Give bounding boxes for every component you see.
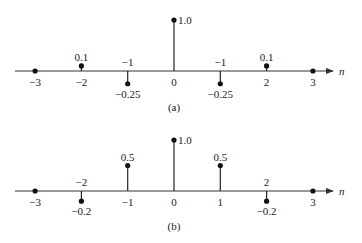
stem-marker: [79, 63, 84, 68]
stem-marker: [171, 137, 176, 142]
x-tick-label: −3: [29, 196, 41, 208]
value-label: 1.0: [178, 14, 192, 26]
x-tick-label: −2: [76, 76, 88, 88]
value-label: −0.2: [257, 205, 277, 217]
stem-plot-figure: n−3−20.1−1−0.2501.0−1−0.2520.13(a) n−3−2…: [0, 0, 362, 243]
x-tick-label: 3: [310, 76, 316, 88]
stem-marker: [310, 188, 315, 193]
value-label: −0.2: [71, 205, 91, 217]
x-tick-label: 0: [171, 196, 177, 208]
stem-marker: [33, 188, 38, 193]
stem-marker: [218, 163, 223, 168]
value-label: 0.5: [121, 151, 135, 163]
stem-marker: [218, 81, 223, 86]
value-label: −0.25: [208, 88, 234, 100]
panel-caption: (b): [168, 220, 181, 233]
x-tick-label: 1: [218, 196, 224, 208]
value-label: 0.1: [75, 51, 89, 63]
value-label: 1.0: [178, 134, 192, 146]
x-tick-label: −1: [122, 196, 134, 208]
value-label: −0.25: [115, 88, 141, 100]
x-axis-label: n: [339, 65, 345, 77]
x-axis-label: n: [339, 185, 345, 197]
x-tick-label: −2: [76, 176, 88, 188]
stem-marker: [79, 199, 84, 204]
x-tick-label: 2: [264, 76, 270, 88]
x-tick-label: 0: [171, 76, 177, 88]
x-tick-label: −3: [29, 76, 41, 88]
stem-plot-a: n−3−20.1−1−0.2501.0−1−0.2520.13(a): [15, 14, 345, 114]
stem-marker: [125, 163, 130, 168]
value-label: 0.1: [260, 51, 274, 63]
stem-marker: [264, 63, 269, 68]
x-tick-label: 2: [264, 176, 270, 188]
x-tick-label: 3: [310, 196, 316, 208]
value-label: 0.5: [213, 151, 227, 163]
stem-marker: [125, 81, 130, 86]
x-tick-label: −1: [214, 56, 226, 68]
x-tick-label: −1: [122, 56, 134, 68]
stem-marker: [310, 68, 315, 73]
stem-plot-b: n−3−2−0.2−10.501.010.52−0.23(b): [15, 134, 345, 233]
stem-marker: [33, 68, 38, 73]
stem-marker: [171, 17, 176, 22]
panel-caption: (a): [168, 101, 181, 114]
stem-marker: [264, 199, 269, 204]
